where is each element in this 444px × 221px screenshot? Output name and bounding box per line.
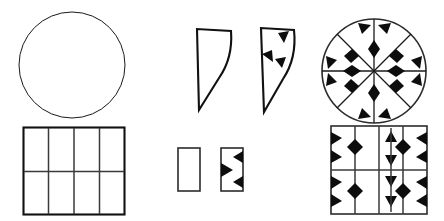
rim-triangle-ssw xyxy=(358,108,371,119)
motif-c1r1-bottom xyxy=(331,150,342,163)
plain-strip-figure xyxy=(176,146,204,194)
patterned-square-grid-figure xyxy=(329,124,429,216)
rim-triangle-sse xyxy=(378,108,391,119)
plain-sector-svg xyxy=(193,26,243,116)
motif-c1r2-bottom xyxy=(331,194,342,207)
inner-diamond-e xyxy=(387,65,405,77)
diamond-c1r1 xyxy=(347,139,363,155)
mid-diamond-nw xyxy=(344,49,359,63)
patterned-sector-figure xyxy=(256,24,306,118)
sector-outline xyxy=(197,29,231,110)
inner-diamond-w xyxy=(343,65,361,77)
strip-outline xyxy=(178,148,200,191)
plain-circle-svg xyxy=(18,11,128,121)
radial-spokes xyxy=(322,19,426,123)
rim-triangle-wsw xyxy=(326,73,337,86)
motif-c1r2-top xyxy=(331,176,342,189)
patterned-circle-figure xyxy=(319,18,431,128)
rim-triangle-nnw xyxy=(358,23,371,34)
motif-c4r2-top xyxy=(416,176,427,189)
diamond-c3r1 xyxy=(395,139,411,155)
motif-c4r1-bottom xyxy=(416,150,427,163)
diamond-c3r2 xyxy=(395,183,411,199)
mid-diamond-se xyxy=(389,79,404,93)
strip-motif-right-top xyxy=(233,151,243,163)
strip-motif-left-middle xyxy=(221,163,233,177)
rim-triangle-wnw xyxy=(326,56,337,69)
plain-sector-figure xyxy=(193,26,243,116)
sector-outline xyxy=(261,28,295,112)
grid-lines xyxy=(331,126,427,214)
diamond-c1r2 xyxy=(347,183,363,199)
plain-square-grid-figure xyxy=(22,126,127,218)
motif-c4r2-bottom xyxy=(416,194,427,207)
inner-diamond-n xyxy=(368,40,380,58)
strip-motif-right-bottom xyxy=(233,176,243,188)
figure-canvas xyxy=(0,0,444,221)
rim-triangle-ese xyxy=(411,73,422,86)
plain-square-grid-svg xyxy=(22,126,127,218)
inner-diamond-s xyxy=(368,84,380,102)
mid-diamond-ne xyxy=(389,49,404,63)
patterned-strip-figure xyxy=(219,146,247,194)
circle-outline xyxy=(19,12,125,118)
sector-motif-3 xyxy=(275,57,286,68)
mid-diamond-sw xyxy=(344,79,359,93)
plain-circle-figure xyxy=(18,11,128,121)
motif-c1r1-top xyxy=(331,132,342,145)
patterned-square-grid-svg xyxy=(329,124,429,216)
patterned-strip-svg xyxy=(219,146,247,194)
rim-triangle-ene xyxy=(411,56,422,69)
motif-c4r1-top xyxy=(416,132,427,145)
plain-strip-svg xyxy=(176,146,204,194)
patterned-sector-svg xyxy=(256,24,306,118)
patterned-circle-svg xyxy=(319,18,431,128)
sector-motif-1 xyxy=(278,31,289,43)
sector-motif-2 xyxy=(262,50,273,62)
rim-triangle-nne xyxy=(378,23,391,34)
